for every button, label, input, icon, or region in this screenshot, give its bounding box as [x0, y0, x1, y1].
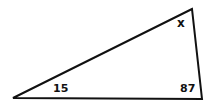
angle-label-bottom-left: 15: [53, 83, 68, 94]
angle-label-top: x: [177, 17, 185, 29]
angle-label-bottom-right: 87: [180, 83, 195, 94]
triangle-shape: [13, 9, 202, 99]
